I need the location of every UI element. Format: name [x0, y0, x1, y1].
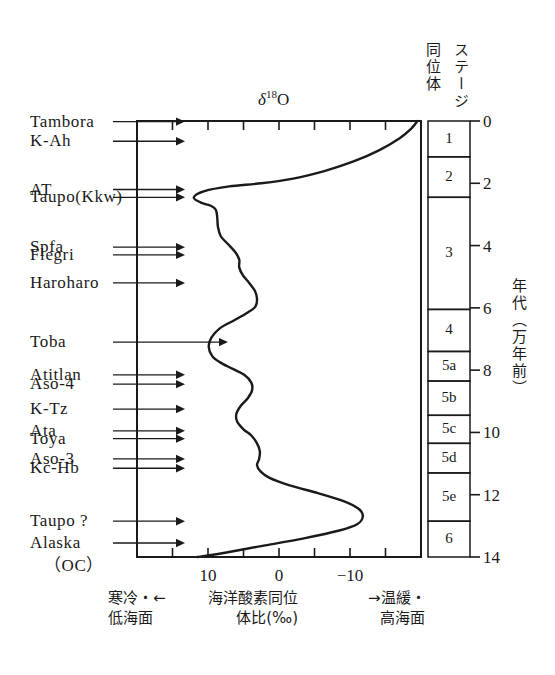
tephra-label: K-Tz	[30, 400, 68, 417]
isotope-stage-label: 4	[428, 322, 470, 337]
caption-right-line1: →温緩・	[368, 588, 426, 608]
isotope-stage-label: 5e	[428, 489, 470, 504]
isotope-stage-label: 5a	[428, 358, 470, 373]
y-tick-label: 10	[483, 423, 500, 443]
caption-center: 海洋酸素同位 体比(‰)	[208, 588, 298, 629]
stage-header-stage: ステージ	[452, 42, 467, 110]
tephra-label: Toya	[30, 430, 66, 447]
y-tick-label: 14	[483, 548, 500, 568]
caption-right: →温緩・ 高海面	[368, 588, 426, 629]
tephra-label: Haroharo	[30, 274, 99, 291]
y-tick-label: 4	[483, 237, 492, 257]
tephra-label: Alaska	[30, 534, 81, 551]
tephra-label: Taupo ?	[30, 512, 88, 529]
y-tick-label: 12	[483, 486, 500, 506]
isotope-stage-label: 2	[428, 169, 470, 184]
caption-left-line2: 低海面	[108, 608, 166, 628]
caption-center-line2: 体比(‰)	[208, 608, 298, 628]
tephra-label: （OC）	[44, 557, 104, 574]
figure-root: δ18O 同位体 ステージ 年代（万年前） TamboraK-AhATTaupo…	[0, 0, 555, 675]
caption-left: 寒冷・← 低海面	[108, 588, 166, 629]
tephra-label: Taupo(Kkw)	[30, 188, 123, 205]
y-tick-label: 6	[483, 299, 492, 319]
chart-title: δ18O	[258, 88, 289, 110]
delta18o-curve	[194, 121, 418, 557]
stage-header-isotope: 同位体	[424, 42, 439, 93]
tephra-label: Tambora	[30, 113, 94, 130]
x-tick-label: 0	[249, 566, 309, 586]
isotope-stage-label: 1	[428, 131, 470, 146]
tephra-label: K-Ah	[30, 132, 71, 149]
isotope-stage-label: 5c	[428, 421, 470, 436]
delta-superscript: 18	[266, 88, 277, 100]
y-tick-label: 0	[483, 112, 492, 132]
x-tick-label: −10	[320, 566, 380, 586]
y-tick-label: 2	[483, 174, 492, 194]
tephra-label: Kc-Hb	[30, 459, 79, 476]
isotope-stage-label: 6	[428, 531, 470, 546]
caption-center-line1: 海洋酸素同位	[208, 588, 298, 608]
isotope-stage-label: 5d	[428, 450, 470, 465]
tephra-label: Flegri	[30, 246, 74, 263]
x-tick-label: 10	[178, 566, 238, 586]
tephra-label: Aso-4	[30, 375, 75, 392]
y-tick-label: 8	[483, 361, 492, 381]
tephra-arrows	[113, 117, 228, 547]
caption-right-line2: 高海面	[368, 608, 426, 628]
caption-left-line1: 寒冷・←	[108, 588, 166, 608]
plot-frame	[137, 121, 421, 557]
tephra-label: Toba	[30, 333, 66, 350]
delta-symbol: δ	[258, 90, 266, 109]
isotope-stage-label: 3	[428, 245, 470, 260]
oxygen-symbol: O	[277, 90, 289, 109]
y-axis-title: 年代（万年前）	[510, 278, 525, 397]
isotope-stage-label: 5b	[428, 390, 470, 405]
